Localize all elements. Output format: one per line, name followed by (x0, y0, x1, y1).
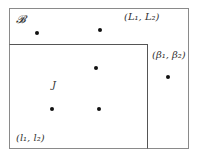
outer-corner-label: (L₁, L₂) (124, 12, 159, 22)
inner-set-label: J (52, 80, 56, 90)
point-dot (166, 75, 170, 79)
point-dot (50, 107, 54, 111)
point-dot (94, 66, 98, 70)
outer-set-label: 𝓑 (16, 14, 26, 25)
outside-point-label: (β₁, β₂) (152, 50, 186, 60)
point-dot (35, 31, 39, 35)
inner-corner-label: (l₁, l₂) (16, 133, 45, 143)
point-dot (97, 107, 101, 111)
point-dot (98, 28, 102, 32)
